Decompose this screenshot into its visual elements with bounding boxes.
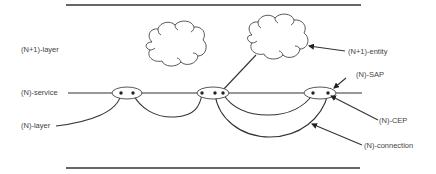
label-n-plus-1-entity: (N+1)-entity bbox=[348, 48, 387, 56]
entity-cloud-left-icon bbox=[146, 21, 206, 66]
sap-left bbox=[112, 87, 142, 99]
sap-middle bbox=[197, 87, 229, 99]
arrow-n-plus-1-entity bbox=[309, 46, 345, 51]
label-n-sap: (N)-SAP bbox=[356, 71, 384, 79]
label-n-cep: (N)-CEP bbox=[379, 117, 407, 125]
arrow-n-sap bbox=[334, 78, 346, 88]
connection-curve-middle-right-outer bbox=[215, 94, 328, 137]
osi-layer-diagram: (N+1)-layer (N)-service (N)-layer (N+1)-… bbox=[0, 0, 436, 174]
entity-to-sap-link bbox=[222, 55, 256, 91]
label-n-layer: (N)-layer bbox=[21, 122, 50, 130]
sap-right bbox=[304, 87, 336, 99]
connection-curve-middle-right-inner bbox=[223, 94, 313, 115]
n-layer-curve bbox=[56, 94, 121, 126]
label-n-service: (N)-service bbox=[21, 89, 58, 97]
connection-curve-left-middle bbox=[133, 94, 202, 117]
entity-cloud-right-icon bbox=[248, 14, 308, 59]
label-n-plus-1-layer: (N+1)-layer bbox=[21, 46, 59, 54]
label-n-connection: (N)-connection bbox=[364, 142, 413, 150]
arrow-n-cep bbox=[331, 96, 378, 120]
arrow-n-connection bbox=[312, 124, 362, 145]
